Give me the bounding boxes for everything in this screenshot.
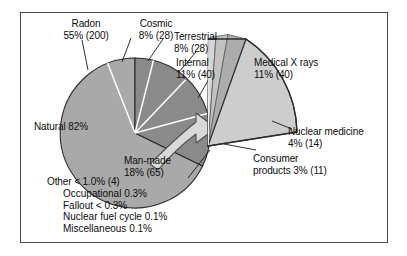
list-item: Occupational 0.3% [63,188,263,200]
label-radon: Radon 55% (200) [48,18,124,41]
other-breakdown-list: Occupational 0.3% Fallout < 0.3% Nuclear… [63,188,263,234]
figure-canvas: Radon 55% (200) Cosmic 8% (28) Terrestri… [0,0,407,256]
list-item: Miscellaneous 0.1% [63,223,263,235]
label-internal: Internal 11% (40) [176,57,238,80]
label-medical-xrays: Medical X rays 11% (40) [254,57,338,80]
label-nuclear-medicine: Nuclear medicine 4% (14) [288,126,392,149]
list-item: Nuclear fuel cycle 0.1% [63,211,263,223]
list-item: Fallout < 0.3% [63,200,263,212]
label-consumer-products: Consumer products 3% (11) [253,153,349,176]
label-natural: Natural 82% [34,121,120,133]
label-terrestrial: Terrestrial 8% (28) [174,31,244,54]
label-other-header: Other < 1.0% (4) [47,176,197,188]
label-manmade: Man-made 18% (65) [124,155,196,178]
